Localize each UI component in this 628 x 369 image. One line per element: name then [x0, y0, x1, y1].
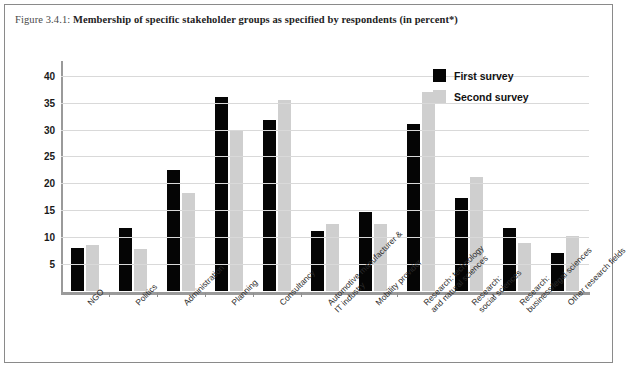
gridline-30 [61, 130, 589, 131]
legend-label-second-survey: Second survey [454, 91, 529, 103]
bar-group [157, 170, 205, 291]
figure-caption-number: Figure 3.4.1: [15, 14, 70, 25]
chart-legend: First surveySecond survey [425, 59, 575, 113]
y-tick-label-5: 5 [21, 259, 55, 270]
bar [311, 231, 324, 291]
gridline-15 [61, 210, 589, 211]
gridline-20 [61, 183, 589, 184]
figure-frame: Figure 3.4.1: Membership of specific sta… [4, 4, 613, 363]
legend-swatch-second-survey [433, 90, 446, 103]
bar [71, 248, 84, 291]
y-tick-label-25: 25 [21, 151, 55, 162]
legend-swatch-first-survey [433, 69, 446, 82]
bar [182, 193, 195, 291]
bar-group [205, 97, 253, 291]
bar [518, 243, 531, 291]
bar [86, 245, 99, 291]
y-axis-tick-labels: 510152025303540 [15, 61, 55, 294]
gridline-25 [61, 156, 589, 157]
bar [422, 92, 435, 291]
x-axis-category-labels: NGOPoliticsAdministrationPlanningConsult… [61, 297, 601, 369]
figure-caption-text: Membership of specific stakeholder group… [73, 14, 458, 25]
bar [167, 170, 180, 291]
y-tick-label-35: 35 [21, 97, 55, 108]
bar [215, 97, 228, 291]
legend-label-first-survey: First survey [454, 70, 514, 82]
legend-item-second-survey: Second survey [433, 86, 567, 107]
gridline-10 [61, 237, 589, 238]
y-tick-label-20: 20 [21, 178, 55, 189]
bar [263, 120, 276, 291]
y-tick-label-40: 40 [21, 70, 55, 81]
chart-area: 510152025303540 NGOPoliticsAdministratio… [15, 35, 604, 360]
legend-item-first-survey: First survey [433, 65, 567, 86]
y-tick-label-10: 10 [21, 232, 55, 243]
bar [326, 224, 339, 291]
figure-caption: Figure 3.4.1: Membership of specific sta… [15, 14, 458, 25]
bar [134, 249, 147, 291]
y-tick-label-15: 15 [21, 205, 55, 216]
bar-group [61, 245, 109, 291]
y-tick-label-30: 30 [21, 124, 55, 135]
